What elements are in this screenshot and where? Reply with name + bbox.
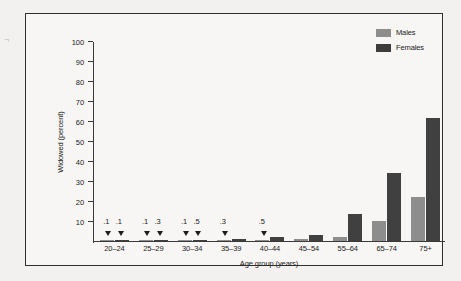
y-tick-label-10: 10 bbox=[76, 217, 84, 226]
bar-pair bbox=[367, 41, 406, 241]
x-tick-label: 45–54 bbox=[299, 244, 319, 253]
x-tick-label: 35–39 bbox=[221, 244, 241, 253]
y-tick-70: 70 bbox=[88, 101, 93, 102]
bar-group: .1.120–24 bbox=[95, 41, 134, 242]
y-tick-label-30: 30 bbox=[76, 177, 84, 186]
small-value-marker-icon bbox=[105, 231, 111, 236]
bar-pair bbox=[134, 41, 173, 241]
small-value-marker-icon bbox=[261, 231, 267, 236]
small-value-label: .3 bbox=[155, 217, 161, 226]
y-tick-80: 80 bbox=[88, 81, 93, 82]
x-tick-label: 55–64 bbox=[338, 244, 358, 253]
y-tick-label-40: 40 bbox=[76, 157, 84, 166]
y-tick-50: 50 bbox=[88, 141, 93, 142]
plot-area: 102030405060708090100 .1.120–24.1.325–29… bbox=[93, 42, 443, 242]
bar-group: 65–74 bbox=[367, 41, 406, 242]
bar-males[interactable] bbox=[255, 240, 269, 241]
bar-females[interactable] bbox=[426, 118, 440, 241]
y-tick-40: 40 bbox=[88, 161, 93, 162]
small-value-label: .1 bbox=[142, 217, 148, 226]
bar-pair bbox=[173, 41, 212, 241]
legend-label-females: Females bbox=[396, 43, 424, 52]
x-axis-title: Age group (years) bbox=[93, 259, 445, 268]
legend-swatch-males-icon bbox=[376, 29, 391, 37]
bar-pair bbox=[406, 41, 445, 241]
bar-males[interactable] bbox=[139, 240, 153, 241]
y-tick-90: 90 bbox=[88, 61, 93, 62]
y-tick-20: 20 bbox=[88, 201, 93, 202]
bar-group: .1.325–29 bbox=[134, 41, 173, 242]
bar-males[interactable] bbox=[411, 197, 425, 241]
bar-group: .335–39 bbox=[212, 41, 251, 242]
bar-males[interactable] bbox=[178, 240, 192, 241]
chart-legend: Males Females bbox=[376, 28, 424, 58]
y-tick-label-20: 20 bbox=[76, 197, 84, 206]
legend-swatch-females-icon bbox=[376, 44, 391, 52]
x-tick-label: 40–44 bbox=[260, 244, 280, 253]
legend-item-females: Females bbox=[376, 43, 424, 52]
bar-females[interactable] bbox=[115, 240, 129, 241]
x-tick-label: 20–24 bbox=[104, 244, 124, 253]
bar-group: 45–54 bbox=[289, 41, 328, 242]
bar-males[interactable] bbox=[217, 240, 231, 241]
y-tick-60: 60 bbox=[88, 121, 93, 122]
bar-pair bbox=[328, 41, 367, 241]
bar-group: 75+ bbox=[406, 41, 445, 242]
y-tick-label-50: 50 bbox=[76, 137, 84, 146]
bar-pair bbox=[251, 41, 290, 241]
y-tick-10: 10 bbox=[88, 221, 93, 222]
bar-males[interactable] bbox=[294, 239, 308, 241]
small-value-marker-icon bbox=[195, 231, 201, 236]
y-tick-100: 100 bbox=[88, 41, 93, 42]
bar-females[interactable] bbox=[193, 240, 207, 241]
bar-females[interactable] bbox=[270, 237, 284, 241]
small-value-label: .3 bbox=[220, 217, 226, 226]
y-tick-label-100: 100 bbox=[72, 37, 84, 46]
small-value-marker-icon bbox=[118, 231, 124, 236]
y-tick-30: 30 bbox=[88, 181, 93, 182]
y-tick-label-70: 70 bbox=[76, 97, 84, 106]
bar-males[interactable] bbox=[333, 237, 347, 241]
bar-females[interactable] bbox=[387, 173, 401, 241]
bar-males[interactable] bbox=[100, 240, 114, 241]
legend-label-males: Males bbox=[396, 28, 416, 37]
x-tick-label: 65–74 bbox=[376, 244, 396, 253]
small-value-marker-icon bbox=[183, 231, 189, 236]
small-value-label: .1 bbox=[103, 217, 109, 226]
bar-pair bbox=[95, 41, 134, 241]
scan-edge-artifact: ¬ bbox=[4, 36, 11, 44]
small-value-label: .1 bbox=[116, 217, 122, 226]
bar-females[interactable] bbox=[154, 240, 168, 241]
x-tick-label: 75+ bbox=[419, 244, 431, 253]
bar-pair bbox=[212, 41, 251, 241]
bar-females[interactable] bbox=[348, 214, 362, 241]
legend-item-males: Males bbox=[376, 28, 424, 37]
bar-group: .540–44 bbox=[251, 41, 290, 242]
y-tick-label-60: 60 bbox=[76, 117, 84, 126]
y-axis-title: Widowed (percent) bbox=[56, 111, 65, 172]
bar-males[interactable] bbox=[372, 221, 386, 241]
small-value-marker-icon bbox=[144, 231, 150, 236]
x-tick-label: 30–34 bbox=[182, 244, 202, 253]
small-value-label: .5 bbox=[193, 217, 199, 226]
small-value-label: .1 bbox=[181, 217, 187, 226]
bar-group: .1.530–34 bbox=[173, 41, 212, 242]
small-value-marker-icon bbox=[222, 231, 228, 236]
bar-pair bbox=[289, 41, 328, 241]
y-axis-line bbox=[93, 42, 94, 243]
small-value-label: .5 bbox=[259, 217, 265, 226]
bar-females[interactable] bbox=[309, 235, 323, 241]
y-tick-label-80: 80 bbox=[76, 77, 84, 86]
page-background: ¬ Widowed (percent) 10203040506070809010… bbox=[0, 0, 461, 281]
x-tick-label: 25–29 bbox=[143, 244, 163, 253]
small-value-marker-icon bbox=[157, 231, 163, 236]
bar-females[interactable] bbox=[232, 239, 246, 241]
y-tick-label-90: 90 bbox=[76, 57, 84, 66]
chart-figure: Widowed (percent) 102030405060708090100 … bbox=[25, 13, 443, 266]
bar-group: 55–64 bbox=[328, 41, 367, 242]
